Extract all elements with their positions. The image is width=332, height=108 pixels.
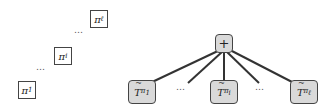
t-pi-1-label: T [134,87,141,98]
plus-label: + [219,36,230,51]
t-pi-1-sub-index: 1 [145,89,149,97]
ellipsis-left-2: … [74,25,84,35]
ellipsis-right-1: … [176,82,186,92]
pi-l-sub: ℓ [101,15,104,23]
pi-1-box: π1 [18,81,36,99]
pi-i-box: πi [54,47,72,65]
edge-root-t1 [150,50,220,83]
t-pi-1-node: Tπ1 [128,80,156,104]
ellipsis-right-2: … [255,82,265,92]
pi-l-label: π [94,14,101,25]
plus-root-node: + [215,34,233,53]
pi-1-sub: 1 [28,86,32,94]
tree-edges [0,0,332,108]
pi-l-box: πℓ [90,10,108,28]
t-pi-l-node: Tπℓ [290,80,318,104]
edge-root-tl [230,50,294,83]
t-pi-i-sub-index: i [229,89,231,97]
t-pi-i-node: Tπi [210,80,238,104]
t-pi-i-label: T [217,87,224,98]
pi-i-sub: i [65,52,67,60]
pi-1-label: π [21,85,28,96]
t-pi-l-label: T [297,87,304,98]
ellipsis-left-1: … [36,62,46,72]
t-pi-l-sub-index: ℓ [308,89,311,97]
pi-i-label: π [59,51,66,62]
